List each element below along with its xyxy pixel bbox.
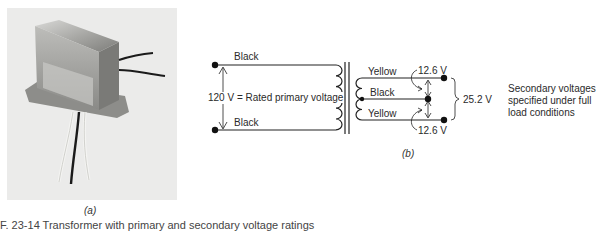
secondary-note-line-1: Secondary voltages <box>508 83 596 94</box>
primary-bottom-lead-label: Black <box>234 117 258 128</box>
secondary-bottom-lead-label: Yellow <box>368 108 397 119</box>
secondary-note-line-2: specified under full <box>508 95 591 106</box>
primary-voltage-label: 120 V = Rated primary voltage <box>207 92 344 103</box>
secondary-center-terminal <box>425 96 431 102</box>
total-secondary-voltage: 25.2 V <box>463 94 492 105</box>
figure-caption: F. 23-14 Transformer with primary and se… <box>0 219 314 231</box>
upper-secondary-voltage: 12.6 V <box>418 65 447 76</box>
primary-top-terminal <box>212 62 218 68</box>
secondary-center-tap-label: Black <box>370 87 394 98</box>
secondary-note-line-3: load conditions <box>508 107 575 118</box>
secondary-bottom-terminal <box>441 117 447 123</box>
lower-secondary-voltage: 12.6 V <box>418 125 447 136</box>
center-tap-junction <box>360 97 364 101</box>
primary-bottom-terminal <box>212 127 218 133</box>
secondary-top-lead-label: Yellow <box>368 66 397 77</box>
panel-b-label: (b) <box>402 148 414 159</box>
primary-top-lead-label: Black <box>234 51 258 62</box>
